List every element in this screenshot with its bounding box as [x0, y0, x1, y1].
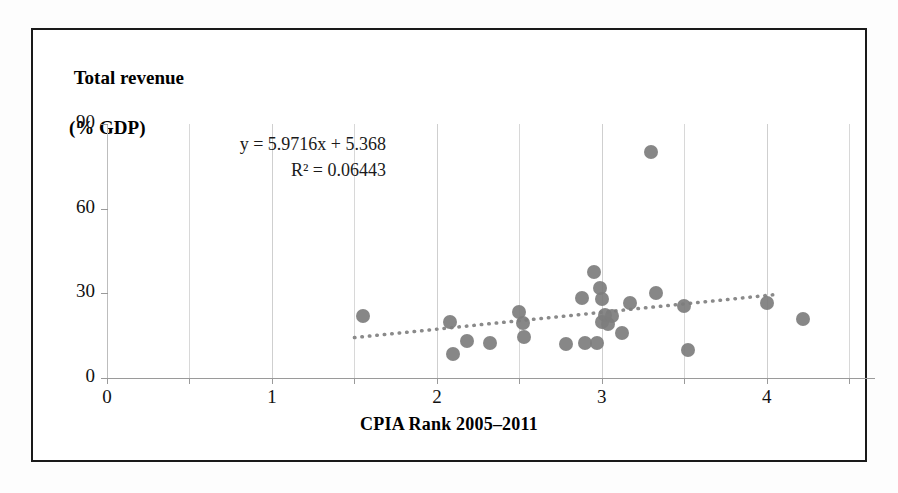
figure-container: Total revenue (% GDP) 0306090 01234 y = …: [0, 0, 898, 493]
data-point: [575, 291, 589, 305]
y-tick-label: 0: [35, 365, 95, 387]
x-tick-mark: [107, 378, 108, 384]
y-tick-label: 30: [35, 280, 95, 302]
x-tick-label: 0: [77, 386, 137, 408]
data-point: [677, 299, 691, 313]
data-point: [446, 347, 460, 361]
x-tick-label: 4: [737, 386, 797, 408]
x-tick-mark: [684, 378, 685, 384]
regression-annotation: y = 5.9716x + 5.368 R² = 0.06443: [196, 131, 386, 183]
data-point: [623, 296, 637, 310]
data-point: [605, 309, 619, 323]
data-point: [517, 330, 531, 344]
x-tick-mark: [519, 378, 520, 384]
x-axis-title: CPIA Rank 2005–2011: [0, 414, 898, 435]
data-point: [443, 315, 457, 329]
data-point: [760, 296, 774, 310]
x-axis-line: [107, 378, 875, 379]
x-tick-mark: [272, 378, 273, 384]
x-tick-mark: [602, 378, 603, 384]
data-point: [615, 326, 629, 340]
data-point: [681, 343, 695, 357]
data-point: [356, 309, 370, 323]
r-squared-label: R² = 0.06443: [196, 157, 386, 183]
x-tick-mark: [849, 378, 850, 384]
x-tick-label: 2: [407, 386, 467, 408]
data-point: [483, 336, 497, 350]
data-point: [796, 312, 810, 326]
y-axis-title-line1: Total revenue: [74, 67, 184, 88]
x-tick-mark: [437, 378, 438, 384]
x-tick-label: 1: [242, 386, 302, 408]
data-point: [590, 336, 604, 350]
data-point: [559, 337, 573, 351]
regression-equation: y = 5.9716x + 5.368: [196, 131, 386, 157]
x-tick-mark: [189, 378, 190, 384]
y-tick-label: 60: [35, 196, 95, 218]
data-point: [587, 265, 601, 279]
data-point: [460, 334, 474, 348]
x-tick-mark: [354, 378, 355, 384]
x-tick-label: 3: [572, 386, 632, 408]
data-point: [595, 292, 609, 306]
data-point: [516, 316, 530, 330]
x-tick-mark: [767, 378, 768, 384]
y-tick-label: 90: [35, 111, 95, 133]
data-point: [649, 286, 663, 300]
data-point: [644, 145, 658, 159]
